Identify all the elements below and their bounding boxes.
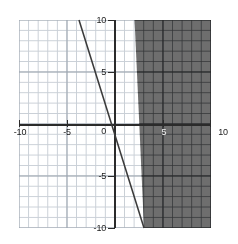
x-axis-label-10: 10	[213, 128, 233, 137]
y-axis-line	[114, 20, 116, 228]
y-axis-label-0: 0	[84, 127, 106, 136]
y-tick-minus10	[108, 228, 115, 229]
y-axis-label-10: 10	[84, 16, 106, 25]
y-tick-minus5	[108, 176, 115, 177]
y-axis-label-minus10: -10	[84, 224, 106, 233]
x-tick-5	[163, 120, 164, 127]
x-tick-minus10	[19, 120, 20, 127]
x-tick-minus5	[67, 120, 68, 127]
y-axis-label-5: 5	[84, 68, 106, 77]
y-axis-label-minus5: -5	[84, 172, 106, 181]
y-tick-10	[108, 20, 115, 21]
graph-figure: -10 -5 5 10 10 5 0 -5 -10	[0, 0, 238, 244]
x-axis-label-minus5: -5	[57, 128, 77, 137]
x-tick-10	[210, 120, 211, 127]
x-axis-label-5: 5	[158, 128, 170, 137]
x-axis-label-minus10: -10	[8, 128, 32, 137]
y-tick-5	[108, 72, 115, 73]
